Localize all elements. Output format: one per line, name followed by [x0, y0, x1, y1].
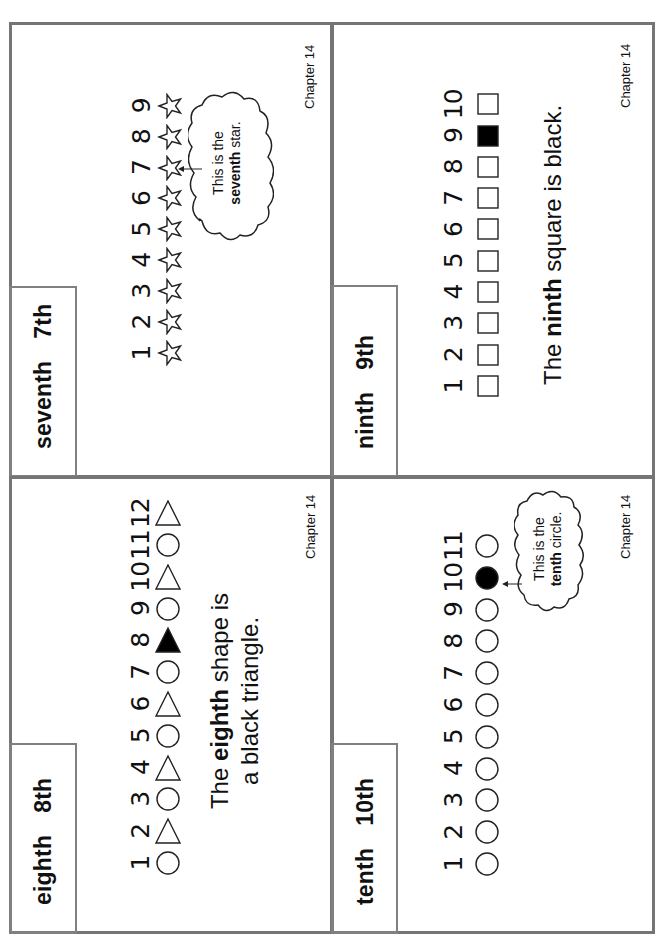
position-number: 7 — [129, 153, 154, 183]
callout-text: This is the seventh star. — [210, 111, 244, 215]
square-icon — [475, 373, 505, 399]
position-number: 9 — [441, 595, 466, 625]
position-number: 12 — [128, 498, 153, 528]
position-number: 1 — [128, 848, 153, 878]
position-number: 2 — [441, 340, 466, 370]
star-icon — [157, 340, 187, 366]
position-number: 10 — [128, 562, 153, 592]
triangle-icon — [154, 754, 186, 782]
position-number: 1 — [441, 371, 466, 401]
circle-icon — [473, 659, 505, 687]
star-icon — [157, 247, 187, 273]
ordinal-sentence: The ninth square is black. — [538, 95, 568, 385]
position-number: 8 — [441, 152, 466, 182]
position-number: 1 — [441, 849, 466, 879]
position-number: 4 — [441, 277, 466, 307]
triangle-icon — [154, 690, 186, 718]
panel-seventh: seventh 7th 123456789 This is the sevent… — [9, 22, 333, 478]
ordinal-word: seventh — [30, 361, 57, 449]
callout-arrow-icon — [176, 163, 204, 175]
position-number: 6 — [128, 689, 153, 719]
position-number: 3 — [441, 308, 466, 338]
position-number: 8 — [129, 122, 154, 152]
chapter-footer: Chapter 14 — [303, 495, 318, 559]
panel-header-tab: tenth 10th — [331, 743, 398, 934]
callout-text: This is the tenth circle. — [531, 501, 565, 597]
square-icon — [475, 154, 505, 180]
circle-icon — [473, 532, 505, 560]
position-number: 8 — [128, 625, 153, 655]
position-number: 4 — [128, 753, 153, 783]
position-number: 7 — [441, 658, 466, 688]
ordinal-abbrev: 9th — [352, 335, 379, 370]
position-number: 2 — [441, 817, 466, 847]
square-icon — [475, 342, 505, 368]
panel-eighth: eighth 8th 123456789101112 The eighth sh… — [9, 476, 333, 934]
triangle-filled-icon — [154, 626, 186, 654]
ordinal-sentence: The eighth shape is a black triangle. — [205, 571, 265, 831]
circle-icon — [154, 722, 186, 750]
panel-header-tab: seventh 7th — [9, 286, 77, 478]
square-icon — [475, 185, 505, 211]
triangle-icon — [154, 499, 186, 527]
star-icon — [157, 278, 187, 304]
circle-icon — [154, 849, 186, 877]
circle-icon — [473, 627, 505, 655]
position-number: 9 — [128, 594, 153, 624]
position-number: 9 — [441, 121, 466, 151]
position-number: 9 — [129, 91, 154, 121]
position-number: 7 — [441, 183, 466, 213]
circle-icon — [473, 691, 505, 719]
triangle-icon — [154, 563, 186, 591]
position-number: 4 — [441, 754, 466, 784]
panel-header-tab: ninth 9th — [331, 285, 398, 478]
position-number: 10 — [441, 563, 466, 593]
position-number: 10 — [441, 89, 466, 119]
circle-icon — [154, 658, 186, 686]
circle-icon — [473, 723, 505, 751]
star-icon — [157, 93, 187, 119]
circle-icon — [473, 755, 505, 783]
ordinal-abbrev: 8th — [30, 778, 57, 813]
star-icon — [157, 124, 187, 150]
ordinal-abbrev: 7th — [30, 304, 57, 339]
position-number: 8 — [441, 626, 466, 656]
position-number: 6 — [441, 690, 466, 720]
position-number: 5 — [441, 246, 466, 276]
position-number: 6 — [129, 184, 154, 214]
position-number: 5 — [128, 721, 153, 751]
position-number: 5 — [129, 214, 154, 244]
square-icon — [475, 310, 505, 336]
square-icon — [475, 248, 505, 274]
circle-icon — [473, 850, 505, 878]
position-number: 11 — [128, 530, 153, 560]
position-number: 3 — [129, 276, 154, 306]
position-number: 3 — [441, 785, 466, 815]
square-icon — [475, 91, 505, 117]
position-number: 5 — [441, 722, 466, 752]
circle-icon — [154, 785, 186, 813]
position-number: 1 — [129, 338, 154, 368]
circle-icon — [473, 818, 505, 846]
star-icon — [157, 186, 187, 212]
position-number: 2 — [128, 816, 153, 846]
triangle-icon — [154, 817, 186, 845]
square-icon — [475, 217, 505, 243]
position-number: 11 — [441, 531, 466, 561]
chapter-footer: Chapter 14 — [618, 495, 633, 559]
position-number: 2 — [129, 307, 154, 337]
position-number: 3 — [128, 784, 153, 814]
star-icon — [157, 216, 187, 242]
panel-tenth: tenth 10th 1234567891011 This is the ten… — [331, 476, 655, 934]
ordinal-word: tenth — [352, 848, 379, 905]
circle-icon — [473, 596, 505, 624]
star-icon — [157, 309, 187, 335]
ordinal-abbrev: 10th — [352, 778, 379, 826]
circle-icon — [154, 595, 186, 623]
panel-ninth: ninth 9th 12345678910 The ninth square i… — [331, 22, 655, 478]
position-number: 4 — [129, 245, 154, 275]
ordinal-word: ninth — [352, 392, 379, 449]
square-icon — [475, 279, 505, 305]
square-filled-icon — [475, 123, 505, 149]
chapter-footer: Chapter 14 — [302, 45, 317, 109]
